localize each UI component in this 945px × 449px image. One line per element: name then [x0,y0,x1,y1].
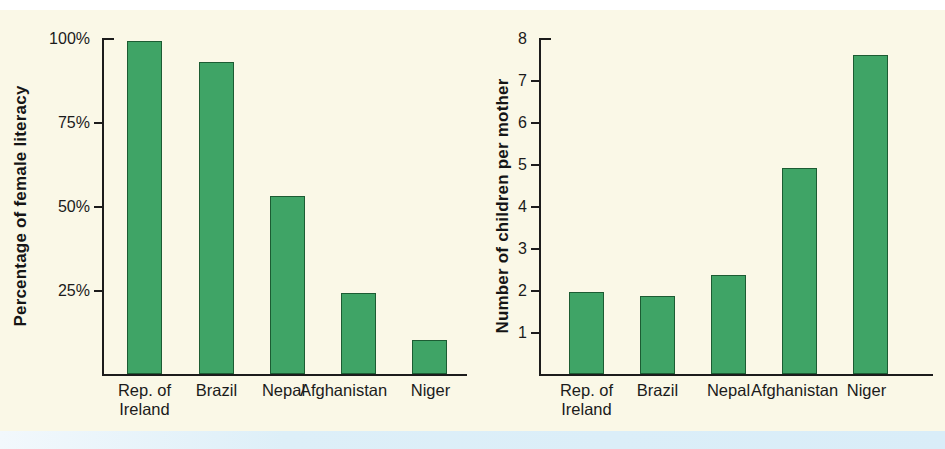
y-tick-label: 1 [465,324,527,342]
scanned-textbook-figure: Percentage of female literacy 25%50%75%1… [0,0,945,449]
y-tick-label: 5 [465,156,527,174]
y-tick-label: 7 [465,72,527,90]
page-bottom-band [0,431,945,449]
x-tick-label: Niger [802,381,932,400]
bar [853,55,888,374]
y-tick [531,248,540,250]
bar [569,292,604,374]
y-tick-label: 4 [465,198,527,216]
bar [640,296,675,374]
y-tick-label: 3 [465,240,527,258]
y-tick-label: 2 [465,282,527,300]
x-axis-line [539,374,933,376]
y-axis-top-tick [540,38,551,40]
y-tick [531,164,540,166]
y-tick [531,332,540,334]
bar [782,168,817,374]
y-tick [531,290,540,292]
y-tick [531,80,540,82]
y-tick [531,122,540,124]
y-tick [531,206,540,208]
y-tick-label: 8 [465,30,527,48]
bar [711,275,746,374]
fertility-bar-chart: Number of children per mother 12345678Re… [0,0,945,449]
y-tick-label: 6 [465,114,527,132]
